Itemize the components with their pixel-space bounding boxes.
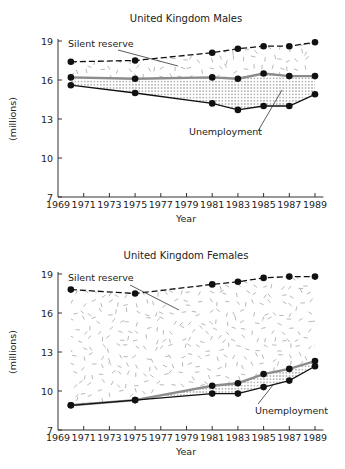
x-tick-label: 1971 xyxy=(72,432,96,443)
data-point-marker xyxy=(209,390,216,397)
axes: 7101316191969197119731975197719791981198… xyxy=(41,269,327,444)
silent-reserve-leader xyxy=(118,50,178,66)
x-axis-label: Year xyxy=(175,213,196,224)
data-point-marker xyxy=(235,279,242,286)
data-point-marker xyxy=(132,57,139,64)
chart-title: United Kingdom Males xyxy=(130,13,242,24)
x-axis-label: Year xyxy=(175,446,196,457)
data-point-marker xyxy=(209,100,216,107)
x-tick-label: 1971 xyxy=(72,199,96,210)
x-tick-label: 1975 xyxy=(123,432,147,443)
data-point-marker xyxy=(312,363,319,370)
figure-canvas: United Kingdom Males 7101316191969197119… xyxy=(0,0,345,469)
y-tick-label: 19 xyxy=(41,36,53,47)
unemployment-label: Unemployment xyxy=(255,405,328,416)
x-tick-label: 1981 xyxy=(200,199,224,210)
x-tick-label: 1985 xyxy=(252,199,276,210)
y-tick-label: 16 xyxy=(41,308,53,319)
data-point-marker xyxy=(209,383,216,390)
y-axis-label: (millions) xyxy=(7,330,18,374)
chart-panel-females: United Kingdom Females 71013161919691971… xyxy=(7,250,328,457)
x-tick-label: 1979 xyxy=(174,432,198,443)
y-tick-label: 10 xyxy=(41,386,53,397)
data-point-marker xyxy=(260,384,267,391)
data-point-marker xyxy=(68,74,75,81)
data-point-marker xyxy=(312,73,319,80)
silent-reserve-label: Silent reserve xyxy=(68,38,134,49)
data-point-marker xyxy=(132,75,139,82)
data-point-marker xyxy=(235,380,242,387)
x-tick-label: 1973 xyxy=(97,199,121,210)
x-tick-label: 1979 xyxy=(174,199,198,210)
data-point-marker xyxy=(312,273,319,280)
data-point-marker xyxy=(260,275,267,282)
y-axis-label: (millions) xyxy=(7,97,18,141)
figure: United Kingdom Males 7101316191969197119… xyxy=(0,0,345,469)
silent-reserve-label: Silent reserve xyxy=(68,272,134,283)
y-tick-label: 10 xyxy=(41,153,53,164)
y-tick-label: 16 xyxy=(41,75,53,86)
x-tick-label: 1977 xyxy=(149,199,173,210)
data-point-marker xyxy=(132,397,139,404)
unemployment-label: Unemployment xyxy=(189,126,262,137)
x-tick-label: 1983 xyxy=(226,432,250,443)
x-tick-label: 1975 xyxy=(123,199,147,210)
data-point-marker xyxy=(286,377,293,384)
y-tick-label: 19 xyxy=(41,269,53,280)
x-tick-label: 1977 xyxy=(149,432,173,443)
data-lines xyxy=(68,273,319,408)
data-point-marker xyxy=(209,281,216,288)
data-point-marker xyxy=(68,82,75,89)
x-tick-label: 1969 xyxy=(46,432,70,443)
data-point-marker xyxy=(68,402,75,409)
x-tick-label: 1983 xyxy=(226,199,250,210)
chart-title: United Kingdom Females xyxy=(124,250,249,261)
data-point-marker xyxy=(132,90,139,97)
y-tick-label: 13 xyxy=(41,347,53,358)
data-point-marker xyxy=(312,91,319,98)
data-point-marker xyxy=(235,390,242,397)
x-tick-label: 1989 xyxy=(303,432,327,443)
data-point-marker xyxy=(209,74,216,81)
data-point-marker xyxy=(286,43,293,50)
data-point-marker xyxy=(286,103,293,110)
data-point-marker xyxy=(286,273,293,280)
data-point-marker xyxy=(68,59,75,66)
data-point-marker xyxy=(260,70,267,77)
x-tick-label: 1981 xyxy=(200,432,224,443)
data-point-marker xyxy=(235,75,242,82)
x-tick-label: 1989 xyxy=(303,199,327,210)
chart-panel-males: United Kingdom Males 7101316191969197119… xyxy=(7,13,327,224)
data-point-marker xyxy=(235,107,242,114)
x-tick-label: 1973 xyxy=(97,432,121,443)
x-tick-label: 1987 xyxy=(277,199,301,210)
x-tick-label: 1969 xyxy=(46,199,70,210)
data-point-marker xyxy=(312,39,319,46)
data-point-marker xyxy=(132,290,139,297)
x-tick-label: 1987 xyxy=(277,432,301,443)
data-point-marker xyxy=(209,49,216,56)
data-point-marker xyxy=(286,366,293,373)
data-point-marker xyxy=(260,43,267,50)
data-point-marker xyxy=(235,46,242,53)
x-tick-label: 1985 xyxy=(252,432,276,443)
y-tick-label: 13 xyxy=(41,114,53,125)
data-point-marker xyxy=(260,103,267,110)
data-point-marker xyxy=(286,73,293,80)
data-point-marker xyxy=(68,286,75,293)
data-point-marker xyxy=(260,371,267,378)
